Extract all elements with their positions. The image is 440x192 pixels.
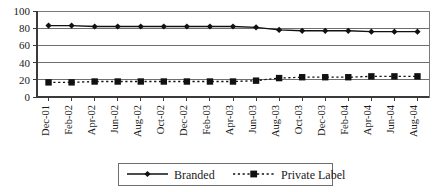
data-point-marker xyxy=(299,74,305,80)
x-tick-label: Aug-04 xyxy=(408,104,419,137)
x-tick-label: Oct-03 xyxy=(293,105,304,134)
data-point-marker xyxy=(115,78,121,84)
data-point-marker xyxy=(138,78,144,84)
x-tick-label: Feb-04 xyxy=(339,104,350,134)
x-tick-label: Feb-02 xyxy=(63,105,74,135)
data-point-marker xyxy=(161,78,167,84)
legend-label-branded: Branded xyxy=(174,168,215,182)
data-point-marker xyxy=(345,74,351,80)
y-tick-label: 60 xyxy=(19,39,31,51)
x-tick-label: Jun-03 xyxy=(247,105,258,134)
data-point-marker xyxy=(230,78,236,84)
x-tick-label: Apr-04 xyxy=(362,104,373,135)
y-tick-label: 20 xyxy=(19,74,31,86)
data-point-marker xyxy=(391,73,397,79)
data-point-marker xyxy=(368,73,374,79)
x-tick-label: Apr-02 xyxy=(86,105,97,135)
data-series-group xyxy=(45,23,420,86)
data-point-marker xyxy=(207,78,213,84)
x-tick-label: Aug-02 xyxy=(132,105,143,137)
data-point-marker xyxy=(253,24,259,30)
data-point-marker xyxy=(276,75,282,81)
data-point-marker xyxy=(45,79,51,85)
chart-legend: BrandedPrivate Label xyxy=(118,163,346,185)
x-tick-label: Dec-03 xyxy=(316,105,327,136)
x-tick-label: Dec-02 xyxy=(178,105,189,136)
y-tick-label: 80 xyxy=(19,22,31,34)
y-axis-labels: 020406080100 xyxy=(14,5,31,103)
data-point-marker xyxy=(91,78,97,84)
y-tick-label: 40 xyxy=(19,57,31,69)
data-point-marker xyxy=(322,74,328,80)
data-point-marker xyxy=(414,73,420,79)
legend-label-private-label: Private Label xyxy=(281,168,346,182)
x-tick-label: Feb-03 xyxy=(201,105,212,135)
x-tick-label: Apr-03 xyxy=(224,105,235,135)
y-tick-label: 0 xyxy=(25,91,31,103)
gridlines-group xyxy=(37,11,429,80)
x-tick-label: Jun-04 xyxy=(385,104,396,133)
line-chart: 020406080100 Dec-01Feb-02Apr-02Jun-02Aug… xyxy=(0,0,440,192)
x-tick-label: Oct-02 xyxy=(155,105,166,134)
data-point-marker xyxy=(184,78,190,84)
data-point-marker xyxy=(368,29,374,35)
data-point-marker xyxy=(68,79,74,85)
data-point-marker xyxy=(253,77,259,83)
chart-container: 020406080100 Dec-01Feb-02Apr-02Jun-02Aug… xyxy=(0,0,440,192)
legend-marker-private-label xyxy=(250,171,257,178)
x-axis-labels: Dec-01Feb-02Apr-02Jun-02Aug-02Oct-02Dec-… xyxy=(40,104,420,137)
x-tick-label: Aug-03 xyxy=(270,105,281,137)
data-point-marker xyxy=(391,29,397,35)
x-tick-label: Jun-02 xyxy=(109,105,120,134)
x-tick-label: Dec-01 xyxy=(40,105,51,136)
y-tick-label: 100 xyxy=(14,5,31,17)
data-point-marker xyxy=(414,29,420,35)
